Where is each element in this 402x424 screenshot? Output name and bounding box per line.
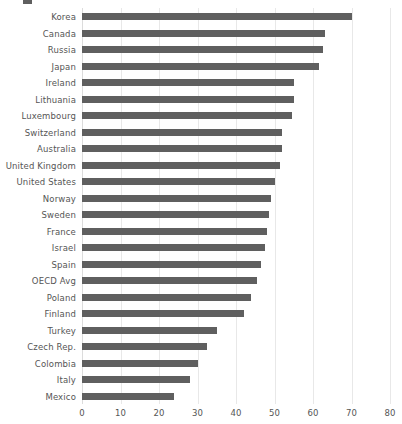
- bar: [82, 261, 261, 268]
- bar: [82, 13, 352, 20]
- bar: [82, 162, 280, 169]
- bar: [82, 211, 269, 218]
- bar-row: [82, 58, 390, 75]
- tick-label-50: 50: [269, 408, 280, 418]
- bar: [82, 96, 294, 103]
- bar-row: [82, 289, 390, 306]
- bar: [82, 46, 323, 53]
- bar: [82, 376, 190, 383]
- bar-row: [82, 322, 390, 339]
- bar-chart: KoreaCanadaRussiaJapanIrelandLithuaniaLu…: [0, 0, 402, 424]
- bar: [82, 393, 174, 400]
- bar: [82, 30, 325, 37]
- bar: [82, 360, 198, 367]
- bar-row: [82, 124, 390, 141]
- bar: [82, 195, 271, 202]
- category-label: Japan: [0, 62, 76, 72]
- bar-row: [82, 107, 390, 124]
- plot-area: [82, 8, 390, 404]
- bar: [82, 63, 319, 70]
- category-label: Ireland: [0, 78, 76, 88]
- bar-row: [82, 305, 390, 322]
- bar: [82, 277, 257, 284]
- category-label: Poland: [0, 293, 76, 303]
- category-label: France: [0, 227, 76, 237]
- tick-label-70: 70: [346, 408, 357, 418]
- category-label: Korea: [0, 12, 76, 22]
- bar-row: [82, 388, 390, 405]
- bar: [82, 244, 265, 251]
- bar-row: [82, 25, 390, 42]
- category-label: Norway: [0, 194, 76, 204]
- bar-row: [82, 173, 390, 190]
- category-label: Canada: [0, 29, 76, 39]
- tick-label-60: 60: [308, 408, 319, 418]
- bar-row: [82, 190, 390, 207]
- bar-row: [82, 338, 390, 355]
- bar-row: [82, 206, 390, 223]
- bar: [82, 145, 282, 152]
- bar: [82, 129, 282, 136]
- bar-row: [82, 239, 390, 256]
- category-label: United States: [0, 177, 76, 187]
- gridline-80: [390, 8, 391, 404]
- category-label: Italy: [0, 375, 76, 385]
- bar: [82, 178, 275, 185]
- bar: [82, 228, 267, 235]
- bar-row: [82, 74, 390, 91]
- bar-row: [82, 41, 390, 58]
- bar-row: [82, 157, 390, 174]
- bar: [82, 310, 244, 317]
- category-label: Russia: [0, 45, 76, 55]
- tick-label-10: 10: [115, 408, 126, 418]
- bar-row: [82, 371, 390, 388]
- category-label: Colombia: [0, 359, 76, 369]
- bar-row: [82, 256, 390, 273]
- category-label: Mexico: [0, 392, 76, 402]
- bar-row: [82, 355, 390, 372]
- bar-row: [82, 272, 390, 289]
- tick-label-40: 40: [231, 408, 242, 418]
- bar: [82, 327, 217, 334]
- category-label: Czech Rep.: [0, 342, 76, 352]
- bar: [82, 112, 292, 119]
- category-label: Turkey: [0, 326, 76, 336]
- tick-label-30: 30: [192, 408, 203, 418]
- tick-label-20: 20: [154, 408, 165, 418]
- tick-label-80: 80: [385, 408, 396, 418]
- category-label: Spain: [0, 260, 76, 270]
- category-label: Switzerland: [0, 128, 76, 138]
- category-label: United Kingdom: [0, 161, 76, 171]
- bar-row: [82, 8, 390, 25]
- category-label: Israel: [0, 243, 76, 253]
- category-label: Lithuania: [0, 95, 76, 105]
- category-label: Australia: [0, 144, 76, 154]
- bar: [82, 294, 251, 301]
- category-label: Sweden: [0, 210, 76, 220]
- bar-row: [82, 223, 390, 240]
- bar: [82, 343, 207, 350]
- category-label: OECD Avg: [0, 276, 76, 286]
- bar: [82, 79, 294, 86]
- bar-row: [82, 140, 390, 157]
- bar-row: [82, 91, 390, 108]
- category-label: Luxembourg: [0, 111, 76, 121]
- legend-marker-icon: [23, 0, 32, 4]
- tick-label-0: 0: [79, 408, 84, 418]
- category-label: Finland: [0, 309, 76, 319]
